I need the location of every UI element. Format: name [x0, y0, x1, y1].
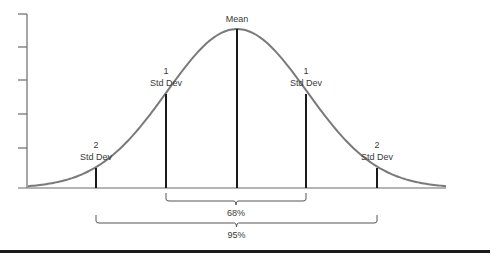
- one-sd-brace: [166, 193, 306, 205]
- one-sd-percent-label: 68%: [227, 207, 245, 219]
- bottom-rule: [0, 250, 490, 253]
- mean-label: Mean: [226, 13, 249, 25]
- bell-curve-diagram: [0, 0, 493, 260]
- minus1-label: 1Std Dev: [150, 65, 182, 89]
- std-dev-lines: [96, 29, 377, 188]
- two-sd-percent-label: 95%: [227, 229, 245, 241]
- plus2-label: 2Std Dev: [361, 139, 393, 163]
- y-axis-ticks: [18, 14, 27, 148]
- plus1-label: 1Std Dev: [290, 65, 322, 89]
- minus2-label: 2Std Dev: [80, 139, 112, 163]
